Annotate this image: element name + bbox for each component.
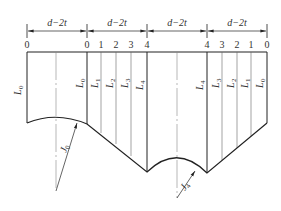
label-seg2-L1: L1 [89,78,102,89]
num-2a: 2 [114,39,119,50]
radius-lines [56,123,195,198]
svg-text:1: 1 [244,78,252,82]
label-seg2-L4: L4 [134,80,147,91]
dim-label-1: d−2t [47,17,67,28]
svg-text:L: L [89,82,100,89]
svg-text:L: L [225,82,236,89]
svg-text:L: L [12,89,23,96]
top-numbers: 0 0 1 2 3 4 4 3 2 1 0 [25,39,270,50]
label-seg2-L3: L3 [119,78,132,89]
dim-label-4: d−2t [227,17,247,28]
svg-text:0: 0 [79,78,87,82]
svg-text:2: 2 [230,78,238,82]
svg-text:4: 4 [139,80,147,84]
label-seg4-L4: L4 [194,80,207,91]
num-4b: 4 [205,39,210,50]
num-4a: 4 [145,39,150,50]
label-J4: J4 [178,179,193,193]
num-1b: 1 [249,39,254,50]
num-2b: 2 [235,39,240,50]
label-left-L0: L0 [12,85,25,96]
svg-text:2: 2 [109,78,117,82]
dim-label-3: d−2t [167,17,187,28]
label-seg4-L2: L2 [225,78,238,89]
svg-text:3: 3 [124,78,132,82]
line-labels: L0 L0 L1 L2 L3 L4 L4 L3 L2 L1 L0 [12,78,267,96]
num-1a: 1 [99,39,104,50]
dim-label-2: d−2t [107,17,127,28]
svg-text:0: 0 [259,78,267,82]
svg-text:L: L [104,82,115,89]
num-0c: 0 [265,39,270,50]
svg-text:L: L [119,82,130,89]
element-lines-thick [27,52,267,173]
label-seg4-L3: L3 [210,78,223,89]
svg-text:4: 4 [199,80,207,84]
label-seg4-L1: L1 [239,78,252,89]
label-seg4-L0: L0 [254,78,267,89]
development-diagram: d−2t d−2t d−2t d−2t 0 0 1 2 3 4 4 3 2 1 … [0,0,281,211]
num-3b: 3 [220,39,225,50]
num-0a: 0 [25,39,30,50]
num-0b: 0 [85,39,90,50]
svg-text:L: L [239,82,250,89]
svg-text:1: 1 [94,78,102,82]
svg-text:L: L [210,82,221,89]
svg-text:L: L [254,82,265,89]
center-lines [56,52,177,198]
label-seg2-L0: L0 [74,78,87,89]
svg-text:3: 3 [215,78,223,82]
label-seg2-L2: L2 [104,78,117,89]
radius-labels: J0 J4 [57,143,192,194]
svg-text:L: L [194,84,205,91]
svg-text:L: L [74,82,85,89]
svg-text:0: 0 [17,85,25,89]
svg-text:L: L [134,84,145,91]
num-3a: 3 [129,39,134,50]
element-lines-thin [101,52,251,160]
